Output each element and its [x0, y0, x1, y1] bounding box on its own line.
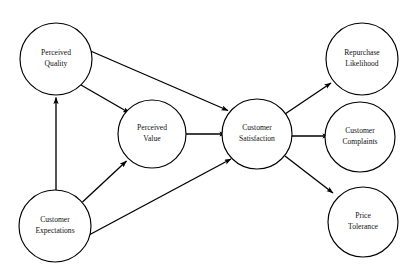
- node-customer-satisfaction-label-line1: Customer: [242, 123, 272, 132]
- node-perceived-quality-label-line2: Quality: [45, 59, 68, 68]
- node-customer-expectations[interactable]: Customer Expectations: [19, 190, 91, 262]
- node-perceived-quality[interactable]: Perceived Quality: [20, 23, 92, 95]
- node-price-tolerance-label-line1: Price: [355, 211, 371, 220]
- node-price-tolerance[interactable]: Price Tolerance: [328, 187, 398, 257]
- node-repurchase-likelihood[interactable]: Repurchase Likelihood: [326, 23, 398, 95]
- node-customer-complaints-label-line1: Customer: [345, 126, 375, 135]
- node-perceived-quality-label-line1: Perceived: [41, 48, 71, 57]
- node-customer-satisfaction-label-line2: Satisfaction: [239, 134, 275, 143]
- node-perceived-value[interactable]: Perceived Value: [118, 100, 186, 168]
- edge-quality-to-value: [81, 85, 130, 113]
- edges-group: [56, 51, 333, 235]
- edge-expectations-to-value: [83, 161, 127, 202]
- edge-expectations-to-satisfaction: [89, 159, 231, 235]
- edge-satisfaction-to-price-tolerance: [285, 156, 333, 193]
- node-repurchase-likelihood-label-line1: Repurchase: [344, 48, 380, 57]
- nodes-group: Perceived Quality Customer Expectations …: [19, 23, 398, 262]
- edge-satisfaction-to-repurchase: [285, 83, 331, 114]
- node-customer-satisfaction[interactable]: Customer Satisfaction: [222, 99, 292, 169]
- diagram-canvas: Perceived Quality Customer Expectations …: [0, 0, 414, 277]
- node-perceived-value-label-line2: Value: [143, 134, 161, 143]
- node-customer-complaints[interactable]: Customer Complaints: [325, 102, 395, 172]
- node-customer-complaints-label-line2: Complaints: [342, 137, 377, 146]
- node-repurchase-likelihood-label-line2: Likelihood: [345, 59, 379, 68]
- node-customer-expectations-label-line1: Customer: [40, 215, 70, 224]
- diagram-svg: Perceived Quality Customer Expectations …: [0, 0, 414, 277]
- node-perceived-value-label-line1: Perceived: [137, 123, 167, 132]
- node-price-tolerance-label-line2: Tolerance: [348, 222, 378, 231]
- node-customer-expectations-label-line2: Expectations: [35, 226, 74, 235]
